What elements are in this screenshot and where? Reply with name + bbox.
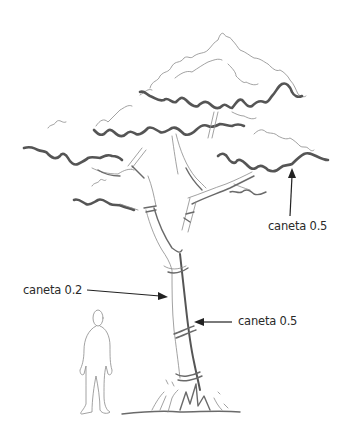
tree-trunk — [144, 206, 202, 390]
canopy-middle-thick-edge — [94, 124, 244, 136]
annotation-canopy-pen: caneta 0.5 — [268, 219, 327, 233]
canopy-upper-thick-edge — [140, 83, 302, 108]
annotation-trunk-left-pen: caneta 0.2 — [23, 283, 82, 297]
canopy-lower-left — [74, 179, 138, 210]
ground-grass — [122, 380, 240, 414]
canopy-middle-outline — [48, 105, 314, 150]
canopy-right-thick-edge — [218, 153, 328, 171]
annotation-trunk-right-pen: caneta 0.5 — [238, 314, 297, 328]
canopy-left-thick-edge — [24, 147, 134, 176]
human-scale-figure — [80, 310, 112, 414]
annotation-arrows — [87, 168, 296, 326]
canopy-top-outline — [140, 33, 306, 97]
